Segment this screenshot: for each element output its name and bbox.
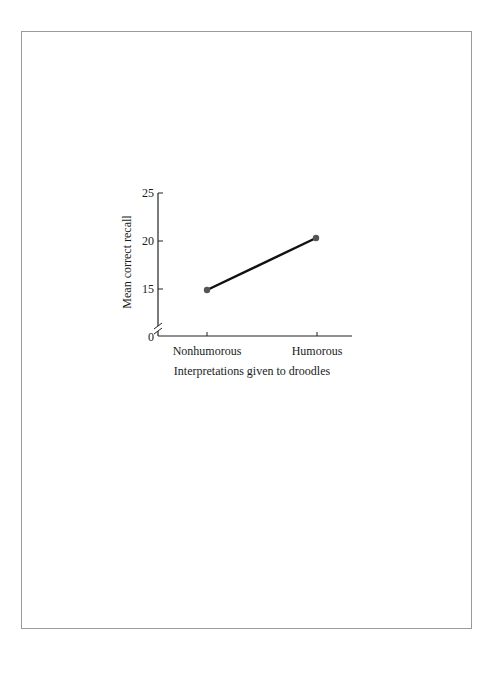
y-tick-label-15: 15 <box>142 282 154 296</box>
y-tick-label-20: 20 <box>142 234 154 248</box>
y-axis-label: Mean correct recall <box>120 215 134 309</box>
data-point-humorous <box>313 235 319 241</box>
y-tick-label-0: 0 <box>148 330 154 344</box>
x-tick-label-nonhumorous: Nonhumorous <box>173 344 242 358</box>
x-axis-label: Interpretations given to droodles <box>174 364 331 378</box>
y-ticks <box>158 193 163 289</box>
data-line <box>207 238 316 290</box>
y-tick-label-25: 25 <box>142 186 154 200</box>
line-chart: 25 20 15 0 Nonhumorous Humorous Interpre… <box>0 0 491 673</box>
x-tick-label-humorous: Humorous <box>292 344 343 358</box>
data-point-nonhumorous <box>204 287 210 293</box>
